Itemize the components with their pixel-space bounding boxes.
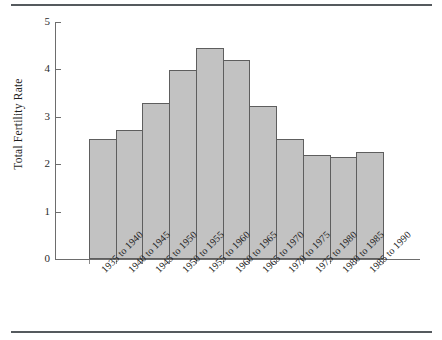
y-axis-line bbox=[55, 22, 56, 260]
figure-container: Total Fertility Rate 012345 1935 to 1940… bbox=[0, 0, 442, 340]
x-tick-mark bbox=[89, 260, 90, 264]
y-tick-label: 4 bbox=[32, 63, 50, 74]
y-tick-label: 0 bbox=[32, 253, 50, 264]
y-tick-mark bbox=[55, 212, 61, 213]
y-tick-label: 3 bbox=[32, 111, 50, 122]
y-tick-label: 5 bbox=[32, 16, 50, 27]
y-tick-label: 1 bbox=[32, 206, 50, 217]
y-tick-mark bbox=[55, 117, 61, 118]
y-tick-mark bbox=[55, 22, 61, 23]
y-tick-mark bbox=[55, 69, 61, 70]
y-axis-title: Total Fertility Rate bbox=[12, 64, 24, 184]
bar bbox=[89, 139, 117, 259]
y-tick-mark bbox=[55, 164, 61, 165]
chart-plot-area: Total Fertility Rate 012345 1935 to 1940… bbox=[0, 0, 442, 340]
bar bbox=[223, 60, 251, 259]
y-tick-mark bbox=[55, 259, 61, 260]
y-tick-label: 2 bbox=[32, 158, 50, 169]
bar bbox=[196, 48, 224, 259]
